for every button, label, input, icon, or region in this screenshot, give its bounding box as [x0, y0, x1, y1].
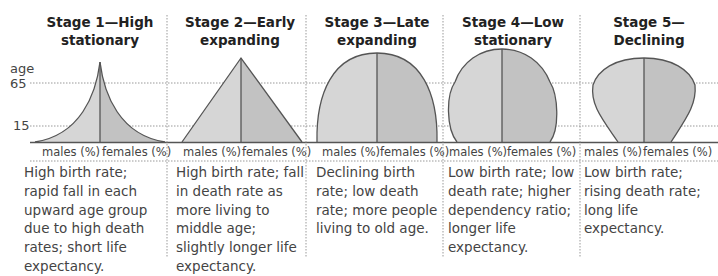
stage3-pyramid	[317, 53, 437, 142]
stage5-description: Low birth rate; rising death rate; long …	[584, 163, 716, 238]
stage2-title-line2: expanding	[170, 31, 310, 49]
stage3-title-line1: Stage 3—Late	[307, 13, 447, 31]
stage4-females-label: females (%)	[507, 145, 576, 159]
stage1-pyramid	[35, 62, 165, 142]
stage2-males-label: males (%)	[183, 145, 241, 159]
stage2-title: Stage 2—Early expanding	[170, 13, 310, 49]
stage3-females-label: females (%)	[380, 145, 449, 159]
stage1-title-line1: Stage 1—High	[30, 13, 170, 31]
stage1-title-line2: stationary	[30, 31, 170, 49]
stage3-title: Stage 3—Late expanding	[307, 13, 447, 49]
stage4-title: Stage 4—Low stationary	[443, 13, 583, 49]
stage5-females-label: females (%)	[643, 145, 712, 159]
age-65-tick: 65	[10, 76, 27, 91]
stage4-description: Low birth rate; low death rate; higher d…	[448, 163, 580, 257]
age-15-tick: 15	[13, 118, 30, 133]
stage4-title-line1: Stage 4—Low	[443, 13, 583, 31]
stage5-title: Stage 5—Declining	[580, 13, 718, 49]
stage1-title: Stage 1—High stationary	[30, 13, 170, 49]
stage3-description: Declining birth rate; low death rate; mo…	[316, 163, 442, 238]
stage2-females-label: females (%)	[242, 145, 311, 159]
age-axis-label: age	[10, 61, 34, 76]
stage1-females-label: females (%)	[102, 145, 171, 159]
stage4-males-label: males (%)	[449, 145, 507, 159]
stage4-title-line2: stationary	[443, 31, 583, 49]
stage2-title-line1: Stage 2—Early	[170, 13, 310, 31]
stage4-pyramid	[448, 49, 556, 142]
stage5-males-label: males (%)	[584, 145, 642, 159]
stage2-description: High birth rate; fall in death rate as m…	[176, 163, 306, 276]
stage1-description: High birth rate; rapid fall in each upwa…	[24, 163, 166, 276]
stage1-males-label: males (%)	[42, 145, 100, 159]
stage3-males-label: males (%)	[322, 145, 380, 159]
stage3-title-line2: expanding	[307, 31, 447, 49]
stage5-title-line1: Stage 5—Declining	[580, 13, 718, 49]
stage2-pyramid	[182, 58, 302, 142]
stage5-pyramid	[593, 58, 696, 142]
